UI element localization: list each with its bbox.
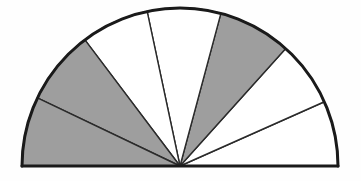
figure-root: A semicircle divided into seven wedge se…: [0, 0, 361, 181]
semicircle-sector-diagram: [0, 0, 361, 181]
sectors-group: [22, 8, 338, 166]
